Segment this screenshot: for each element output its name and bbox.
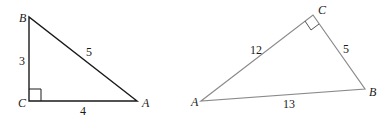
side-label-BC-left: 3 (19, 54, 25, 68)
vertex-label-A-left: A (141, 96, 150, 110)
side-label-CA-left: 4 (80, 104, 86, 118)
right-angle-marker-right (305, 21, 319, 30)
vertex-label-B-left: B (19, 11, 27, 25)
side-label-AC-right: 12 (250, 43, 262, 57)
side-label-CB-right: 5 (343, 42, 349, 56)
triangle-right-outline (201, 15, 365, 101)
triangle-right: C A B 12 5 13 (190, 3, 377, 111)
right-angle-marker-left (29, 89, 41, 101)
vertex-label-B-right: B (369, 85, 377, 99)
diagram-canvas: B C A 3 4 5 C A B 12 5 13 (0, 0, 384, 118)
vertex-label-A-right: A (190, 95, 199, 109)
side-label-AB-right: 13 (283, 97, 295, 111)
triangle-left: B C A 3 4 5 (18, 11, 150, 118)
triangle-left-outline (29, 17, 137, 101)
side-label-AB-left: 5 (86, 45, 92, 59)
vertex-label-C-right: C (318, 3, 327, 17)
vertex-label-C-left: C (18, 96, 27, 110)
